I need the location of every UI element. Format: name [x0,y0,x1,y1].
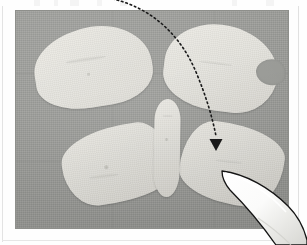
top-text-remnants [0,0,307,9]
stylus-pointer [212,158,307,245]
page-rule-left [2,6,3,242]
stylus-body [222,171,307,245]
page-canvas [0,0,307,245]
